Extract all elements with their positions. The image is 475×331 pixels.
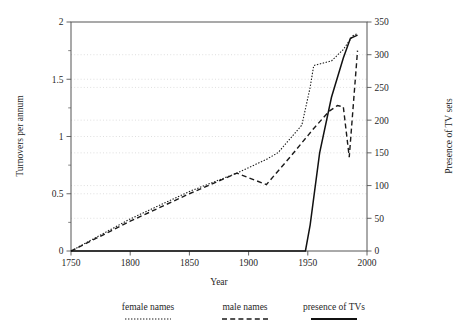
y2-tick-label: 0 bbox=[375, 246, 380, 256]
y2-axis-title: Presence of TV sets bbox=[444, 98, 454, 174]
x-tick-label: 1950 bbox=[298, 258, 317, 268]
y-tick-label: 1 bbox=[59, 132, 64, 142]
y-tick-label: 1.5 bbox=[52, 75, 64, 85]
y2-tick-label: 100 bbox=[375, 181, 390, 191]
series-line-presence-of-TVs bbox=[71, 35, 358, 251]
y-axis-title: Turnovers per annum bbox=[15, 95, 25, 177]
y2-tick-label: 350 bbox=[375, 17, 390, 27]
y2-tick-label: 150 bbox=[375, 148, 390, 158]
chart-container: 00.511.520501001502002503003501750180018… bbox=[0, 0, 475, 331]
y2-tick-label: 200 bbox=[375, 116, 390, 126]
series-line-male-names bbox=[71, 51, 358, 251]
y-tick-label: 2 bbox=[59, 17, 64, 27]
y-tick-label: 0.5 bbox=[52, 189, 64, 199]
x-tick-label: 1850 bbox=[180, 258, 199, 268]
x-tick-label: 1750 bbox=[62, 258, 81, 268]
x-tick-label: 1800 bbox=[121, 258, 140, 268]
x-tick-label: 2000 bbox=[358, 258, 377, 268]
axis-ticks bbox=[67, 22, 372, 256]
x-axis-title: Year bbox=[210, 277, 228, 287]
legend-label-0: female names bbox=[122, 302, 175, 312]
y2-tick-label: 50 bbox=[375, 214, 385, 224]
legend-label-2: presence of TVs bbox=[303, 302, 365, 312]
y-tick-label: 0 bbox=[59, 246, 64, 256]
line-chart: 00.511.520501001502002503003501750180018… bbox=[0, 0, 475, 331]
y2-tick-label: 250 bbox=[375, 83, 390, 93]
y2-tick-label: 300 bbox=[375, 50, 390, 60]
x-tick-label: 1900 bbox=[239, 258, 258, 268]
chart-legend: female namesmale namespresence of TVs bbox=[122, 302, 366, 319]
legend-label-1: male names bbox=[222, 302, 267, 312]
